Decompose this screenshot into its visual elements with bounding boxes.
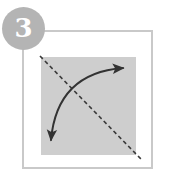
- crease-line: [40, 56, 141, 159]
- step-number-label: 3: [14, 15, 32, 43]
- step-number-badge: 3: [2, 7, 45, 50]
- origami-step-figure: 3: [0, 0, 171, 185]
